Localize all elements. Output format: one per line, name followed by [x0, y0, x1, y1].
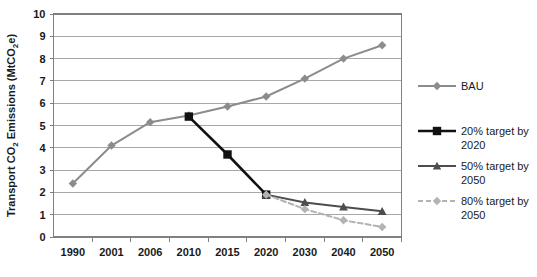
data-point	[339, 216, 347, 224]
x-tick-label-2001: 2001	[99, 246, 123, 258]
x-tick-label-2030: 2030	[293, 246, 317, 258]
x-tick-label-2020: 2020	[254, 246, 278, 258]
data-point	[339, 54, 347, 62]
y-tick-label-1: 1	[39, 209, 45, 221]
legend-item-4[interactable]: 80% target by2050	[418, 195, 529, 221]
legend-label-line1: BAU	[461, 80, 484, 92]
y-tick-label-8: 8	[39, 53, 45, 65]
chart-legend: BAU20% target by202050% target by205080%…	[418, 80, 529, 221]
series-line	[266, 195, 382, 227]
y-tick-label-6: 6	[39, 97, 45, 109]
series-3	[262, 190, 387, 215]
x-axis-tick-labels: 199020012006201020152020203020402050	[61, 237, 402, 258]
y-tick-label-7: 7	[39, 75, 45, 87]
x-tick-label-2015: 2015	[215, 246, 239, 258]
y-axis-tick-labels: 012345678910	[33, 8, 53, 243]
x-tick-label-2050: 2050	[370, 246, 394, 258]
y-axis-title-text: Transport CO2 Emissions (MtCO2e)	[5, 34, 20, 217]
chart-canvas: 012345678910 199020012006201020152020203…	[0, 0, 537, 277]
legend-item-1[interactable]: BAU	[418, 80, 484, 92]
data-series-group	[69, 41, 387, 231]
transport-emissions-chart: 012345678910 199020012006201020152020203…	[0, 0, 537, 277]
data-point	[185, 112, 193, 120]
y-tick-label-9: 9	[39, 30, 45, 42]
x-tick-label-2010: 2010	[177, 246, 201, 258]
legend-swatch-marker	[433, 197, 441, 205]
legend-label-line2: 2020	[461, 139, 485, 151]
x-tick-label-2040: 2040	[331, 246, 355, 258]
data-point	[301, 74, 309, 82]
y-tick-label-4: 4	[39, 142, 46, 154]
data-point	[223, 150, 231, 158]
legend-label-line2: 2050	[461, 209, 485, 221]
legend-label-line1: 80% target by	[461, 195, 529, 207]
y-tick-label-5: 5	[39, 120, 45, 132]
y-tick-label-3: 3	[39, 164, 45, 176]
x-tick-label-2006: 2006	[138, 246, 162, 258]
data-point	[301, 205, 309, 213]
data-point	[378, 41, 386, 49]
data-point	[262, 92, 270, 100]
y-tick-label-0: 0	[39, 231, 45, 243]
series-line	[266, 195, 382, 212]
legend-label-line1: 20% target by	[461, 125, 529, 137]
x-tick-label-1990: 1990	[61, 246, 85, 258]
legend-label-line2: 2050	[461, 174, 485, 186]
gridlines-group	[54, 14, 402, 237]
series-line	[73, 45, 382, 183]
y-tick-label-2: 2	[39, 186, 45, 198]
data-point	[378, 223, 386, 231]
y-axis-title: Transport CO2 Emissions (MtCO2e)	[5, 34, 20, 217]
series-1	[69, 41, 387, 188]
legend-swatch-marker	[433, 127, 441, 135]
legend-swatch-marker	[433, 82, 441, 90]
legend-label-line1: 50% target by	[461, 160, 529, 172]
legend-item-2[interactable]: 20% target by2020	[418, 125, 529, 151]
y-tick-label-10: 10	[33, 8, 45, 20]
legend-item-3[interactable]: 50% target by2050	[418, 160, 529, 186]
